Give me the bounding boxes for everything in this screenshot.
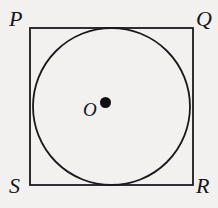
vertex-label-s: S xyxy=(9,175,20,197)
inscribed-circle xyxy=(33,28,190,185)
vertex-label-r: R xyxy=(196,175,209,197)
center-point-dot xyxy=(100,97,111,108)
center-label-o: O xyxy=(83,100,97,119)
vertex-label-p: P xyxy=(9,8,22,30)
geometry-figure: P Q R S O xyxy=(0,0,218,208)
vertex-label-q: Q xyxy=(196,8,212,30)
